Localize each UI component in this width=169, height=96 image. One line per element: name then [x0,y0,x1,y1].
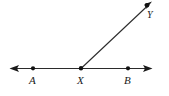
point-label-x: X [77,75,84,86]
point-b-dot [126,66,130,70]
point-x-dot [79,66,83,70]
point-label-y: Y [147,10,153,20]
ray-xy [81,2,152,69]
point-y-dot [145,3,150,8]
point-label-a: A [29,75,36,86]
point-label-b: B [124,75,131,86]
geometry-figure: A X B Y [0,0,169,96]
figure-canvas [0,0,169,96]
ray-xy-segment [81,5,149,69]
point-a-dot [31,66,35,70]
